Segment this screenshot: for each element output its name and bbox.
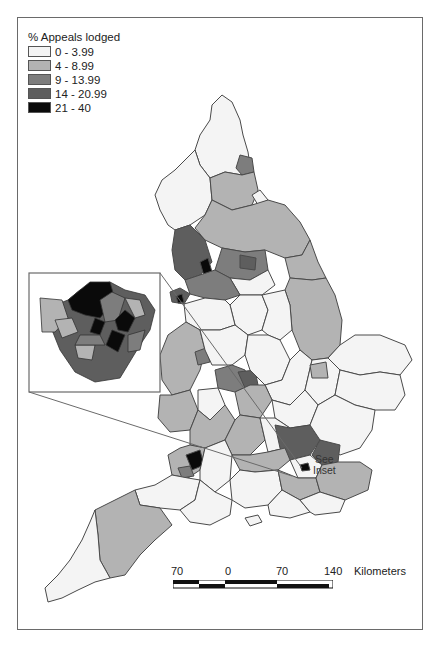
- region-lincolnshire: [285, 278, 342, 360]
- region-bradford: [240, 255, 256, 270]
- see-inset-label: See Inset: [313, 454, 336, 476]
- see-inset-line2: Inset: [313, 465, 336, 476]
- scale-tick: 70: [171, 565, 183, 577]
- scale-bar: [173, 580, 333, 590]
- region-nottinghamshire: [262, 290, 292, 340]
- scale-tick: 0: [225, 565, 231, 577]
- region-knowsley: [176, 294, 184, 303]
- choropleth-map: [0, 0, 436, 649]
- region-peterborough: [310, 362, 328, 378]
- scale-unit: Kilometers: [354, 565, 406, 577]
- region-isle-of-wight: [245, 515, 262, 526]
- region-north-yorkshire: [195, 200, 310, 258]
- scale-tick: 70: [276, 565, 288, 577]
- scale-tick: 140: [324, 565, 342, 577]
- scale-bar-labels: 70 0 70 140 Kilometers: [166, 565, 426, 579]
